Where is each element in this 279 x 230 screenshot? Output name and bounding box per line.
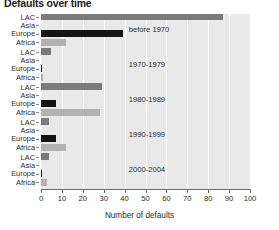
x-axis-tick xyxy=(250,189,251,193)
x-axis-tick xyxy=(166,189,167,193)
bar-europe-0 xyxy=(41,30,123,37)
y-axis-label-europe: Europe xyxy=(11,100,35,107)
x-axis-title: Number of defaults xyxy=(0,211,279,220)
bar-europe-2 xyxy=(41,100,56,107)
bar-row xyxy=(41,74,250,81)
bar-row xyxy=(41,83,250,90)
y-axis-tick xyxy=(36,17,39,18)
y-axis-label-asia: Asia xyxy=(21,92,35,99)
y-axis-label-europe: Europe xyxy=(11,135,35,142)
y-axis-labels: LACAsiaEuropeAfricaLACAsiaEuropeAfricaLA… xyxy=(0,14,39,189)
group-label-1: 1970-1979 xyxy=(129,60,165,69)
y-axis-tick xyxy=(36,104,39,105)
bar-europe-3 xyxy=(41,135,56,142)
bar-row xyxy=(41,48,250,55)
y-axis-label-lac: LAC xyxy=(21,49,35,56)
y-axis-tick xyxy=(36,157,39,158)
bar-row xyxy=(41,153,250,160)
x-axis-tick-label: 80 xyxy=(204,194,212,203)
bar-row xyxy=(41,179,250,186)
y-axis-tick xyxy=(36,112,39,113)
chart-container: Defaults over time before 19701970-19791… xyxy=(0,0,279,230)
bar-asia-4 xyxy=(41,162,42,169)
x-axis-tick-label: 20 xyxy=(79,194,87,203)
x-axis-tick xyxy=(187,189,188,193)
y-axis-tick xyxy=(36,165,39,166)
bar-europe-1 xyxy=(41,65,42,72)
x-axis-tick-label: 10 xyxy=(58,194,66,203)
y-axis-tick xyxy=(36,87,39,88)
y-axis-label-asia: Asia xyxy=(21,57,35,64)
y-axis-tick xyxy=(36,69,39,70)
y-axis-label-europe: Europe xyxy=(11,65,35,72)
bar-row xyxy=(41,39,250,46)
x-axis-tick-label: 50 xyxy=(141,194,149,203)
y-axis-label-europe: Europe xyxy=(11,30,35,37)
x-axis-tick-label: 100 xyxy=(244,194,257,203)
bar-lac-2 xyxy=(41,83,102,90)
x-axis-tick xyxy=(41,189,42,193)
bar-asia-2 xyxy=(41,92,42,99)
bar-row xyxy=(41,109,250,116)
x-axis-tick xyxy=(125,189,126,193)
bar-asia-3 xyxy=(41,127,42,134)
y-axis-tick xyxy=(36,77,39,78)
y-axis-label-lac: LAC xyxy=(21,14,35,21)
bar-africa-2 xyxy=(41,109,100,116)
y-axis-label-asia: Asia xyxy=(21,127,35,134)
bar-row xyxy=(41,118,250,125)
y-axis-label-asia: Asia xyxy=(21,162,35,169)
y-axis-label-lac: LAC xyxy=(21,84,35,91)
y-axis-tick xyxy=(36,139,39,140)
bar-asia-1 xyxy=(41,57,42,64)
plot-area: before 19701970-19791980-19891990-199920… xyxy=(41,14,250,189)
group-label-2: 1980-1989 xyxy=(129,95,165,104)
y-axis-tick xyxy=(36,34,39,35)
group-label-4: 2000-2004 xyxy=(129,165,165,174)
y-axis-label-europe: Europe xyxy=(11,170,35,177)
y-axis-label-asia: Asia xyxy=(21,22,35,29)
x-axis-tick-label: 0 xyxy=(39,194,43,203)
bar-lac-1 xyxy=(41,48,51,55)
bar-row xyxy=(41,144,250,151)
y-axis-label-africa: Africa xyxy=(16,74,35,81)
y-axis-tick xyxy=(36,122,39,123)
y-axis-tick xyxy=(36,147,39,148)
y-axis-label-africa: Africa xyxy=(16,144,35,151)
y-axis-label-lac: LAC xyxy=(21,119,35,126)
y-axis-tick xyxy=(36,60,39,61)
x-axis-tick-label: 90 xyxy=(225,194,233,203)
x-axis-tick-label: 70 xyxy=(183,194,191,203)
bar-africa-0 xyxy=(41,39,66,46)
bar-lac-3 xyxy=(41,118,49,125)
y-axis-label-africa: Africa xyxy=(16,179,35,186)
bar-africa-3 xyxy=(41,144,66,151)
x-axis-tick xyxy=(229,189,230,193)
y-axis-tick xyxy=(36,95,39,96)
y-axis-tick xyxy=(36,182,39,183)
y-axis-label-africa: Africa xyxy=(16,109,35,116)
y-axis-tick xyxy=(36,25,39,26)
y-axis-tick xyxy=(36,130,39,131)
y-axis-tick xyxy=(36,174,39,175)
bar-row xyxy=(41,14,250,20)
x-axis-tick xyxy=(208,189,209,193)
bar-lac-4 xyxy=(41,153,49,160)
group-label-0: before 1970 xyxy=(129,25,170,34)
x-axis-tick-label: 30 xyxy=(99,194,107,203)
bar-asia-0 xyxy=(41,22,42,29)
x-axis-tick xyxy=(104,189,105,193)
bar-europe-4 xyxy=(41,170,42,177)
bar-lac-0 xyxy=(41,14,223,20)
y-axis-tick xyxy=(36,42,39,43)
bar-africa-4 xyxy=(41,179,47,186)
bar-africa-1 xyxy=(41,74,43,81)
y-axis-label-africa: Africa xyxy=(16,39,35,46)
x-axis-tick xyxy=(83,189,84,193)
y-axis-tick xyxy=(36,52,39,53)
y-axis-label-lac: LAC xyxy=(21,154,35,161)
page-title: Defaults over time xyxy=(4,0,91,9)
group-label-3: 1990-1999 xyxy=(129,130,165,139)
x-axis-tick xyxy=(62,189,63,193)
x-axis-tick-label: 60 xyxy=(162,194,170,203)
